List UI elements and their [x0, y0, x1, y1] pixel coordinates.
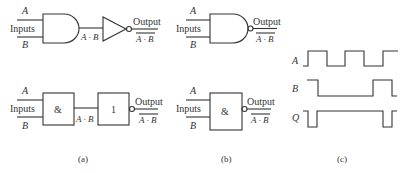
not-symbol: 1: [111, 104, 116, 115]
input-a-label: A: [21, 85, 29, 96]
inputs-label: Inputs: [10, 23, 35, 34]
output-expr: A · B: [138, 115, 157, 125]
signal-b-waveform: [307, 80, 397, 96]
panel-b-bottom: A Inputs B & Output A · B: [176, 85, 275, 131]
inputs-label: Inputs: [10, 103, 35, 114]
output-expr: A · B: [250, 115, 269, 125]
caption-c: (c): [337, 154, 347, 164]
inputs-label: Inputs: [176, 23, 201, 34]
input-b-label: B: [22, 39, 28, 50]
input-a-label: A: [189, 85, 197, 96]
input-a-label: A: [21, 5, 29, 16]
signal-q-label: Q: [292, 112, 300, 123]
caption-a: (a): [78, 154, 88, 164]
panel-a-bottom: A Inputs B & A · B 1 Output A · B: [10, 85, 163, 131]
output-label: Output: [135, 96, 163, 107]
input-a-label: A: [189, 5, 197, 16]
not-gate-icon: [103, 17, 126, 41]
panel-c-waveforms: A B Q: [291, 51, 398, 127]
inputs-label: Inputs: [176, 103, 201, 114]
intermediate-label: A · B: [75, 114, 94, 124]
output-label: Output: [253, 16, 281, 27]
inversion-bubble-icon: [127, 27, 132, 32]
input-b-label: B: [190, 39, 196, 50]
inversion-bubble-icon: [130, 107, 135, 112]
panel-b-top: A Inputs B Output A · B: [176, 5, 281, 50]
caption-b: (b): [221, 154, 232, 164]
signal-a-waveform: [303, 51, 398, 66]
and-symbol: &: [54, 104, 62, 115]
intermediate-label: A · B: [80, 32, 99, 42]
signal-b-label: B: [292, 83, 298, 94]
and-gate-icon: [43, 14, 79, 43]
output-expr: A · B: [255, 34, 274, 44]
input-b-label: B: [190, 120, 196, 131]
and-symbol: &: [221, 106, 229, 117]
panel-a-top: A Inputs B A · B Output A · B: [10, 5, 161, 50]
inversion-bubble-icon: [242, 107, 247, 112]
input-b-label: B: [22, 120, 28, 131]
logic-gate-figure: A Inputs B A · B Output A · B A Inputs B…: [0, 0, 411, 173]
output-expr: A · B: [135, 34, 154, 44]
output-label: Output: [133, 16, 161, 27]
signal-a-label: A: [291, 55, 299, 66]
output-label: Output: [247, 96, 275, 107]
signal-q-waveform: [303, 111, 397, 127]
nand-gate-icon: [210, 14, 248, 43]
